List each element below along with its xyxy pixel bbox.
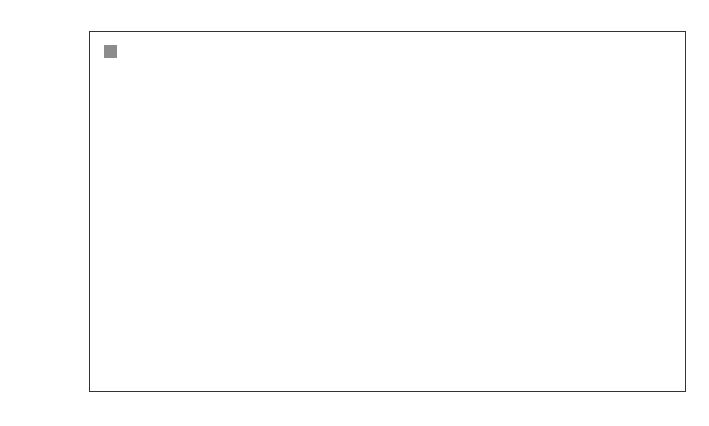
legend-swatch-range — [104, 45, 117, 58]
plot-area — [89, 31, 686, 392]
legend — [104, 45, 123, 58]
